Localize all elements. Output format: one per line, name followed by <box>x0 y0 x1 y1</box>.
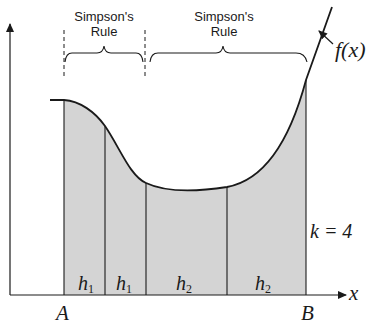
bracket-label-2-line2: Rule <box>211 24 238 39</box>
k-label: k = 4 <box>310 220 352 242</box>
simpsons-rule-diagram: Simpson's Rule Simpson's Rule f(x) k = 4… <box>0 0 379 327</box>
brace-right <box>150 46 307 62</box>
bracket-label-1-line1: Simpson's <box>74 9 134 24</box>
bracket-label-1-line2: Rule <box>91 24 118 39</box>
brace-left <box>65 46 143 62</box>
area-under-curve <box>64 80 306 295</box>
upper-limit-label: B <box>301 301 314 325</box>
function-label: f(x) <box>335 37 366 62</box>
x-axis-label: x <box>348 281 359 305</box>
bracket-label-2-line1: Simpson's <box>194 9 254 24</box>
lower-limit-label: A <box>54 301 69 325</box>
